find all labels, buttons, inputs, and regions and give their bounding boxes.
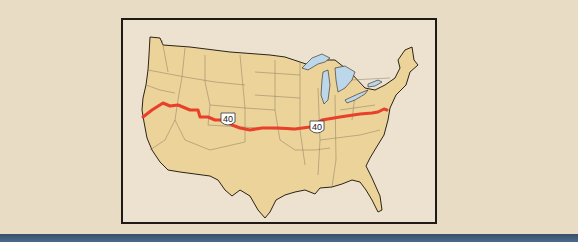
route-40-shield-east: 40 [310, 121, 324, 133]
shield-label-east: 40 [312, 122, 322, 132]
route-40-shield-west: 40 [221, 113, 235, 125]
shield-label-west: 40 [223, 114, 233, 124]
bottom-bar [0, 234, 578, 242]
lake-ontario [368, 80, 382, 87]
us-map: 40 40 [0, 0, 578, 242]
